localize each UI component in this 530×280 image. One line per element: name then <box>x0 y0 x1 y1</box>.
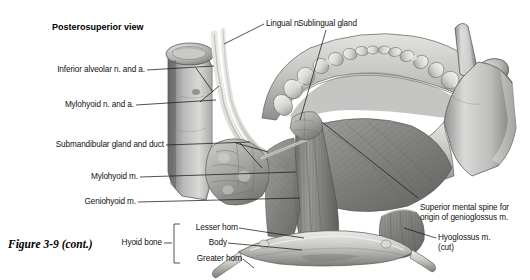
label-greater-horn: Greater horn <box>180 254 242 264</box>
label-hyoid-bone: Hyoid bone <box>96 238 162 248</box>
label-mylohyoid-m: Mylohyoid m. <box>0 172 138 182</box>
label-superior-mental-spine-line1: Superior mental spine for <box>420 203 509 212</box>
label-mylohyoid-n-a: Mylohyoid n. and a. <box>0 100 134 110</box>
label-inferior-alveolar: Inferior alveolar n. and a. <box>0 65 145 75</box>
label-body: Body <box>182 238 227 248</box>
label-lesser-horn: Lesser horn <box>182 223 238 233</box>
label-superior-mental-spine: Superior mental spine for origin of geni… <box>420 203 528 224</box>
sublingual-gland <box>290 112 322 140</box>
view-heading: Posterosuperior view <box>52 22 144 32</box>
anatomy-figure: Posterosuperior view Figure 3-9 (cont.) … <box>0 0 530 280</box>
label-superior-mental-spine-line2: origin of genioglossus m. <box>420 213 508 222</box>
label-lingual-n: Lingual n. <box>266 19 301 29</box>
label-geniohyoid-m: Geniohyoid m. <box>0 197 136 207</box>
label-submandibular-gland-duct: Submandibular gland and duct <box>0 140 164 150</box>
label-hyoglossus-line1: Hyoglossus <box>438 233 479 242</box>
label-sublingual-gland: Sublingual gland <box>298 19 357 29</box>
label-hyoglossus: Hyoglossus m. (cut) <box>438 233 508 254</box>
figure-caption: Figure 3-9 (cont.) <box>8 238 93 250</box>
